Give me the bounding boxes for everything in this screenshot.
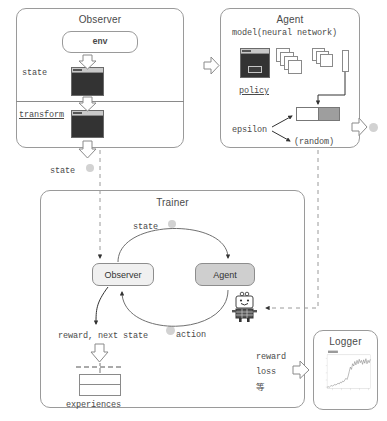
state-image-transformed [71, 110, 104, 138]
state-image-body [72, 73, 103, 95]
experiences-label: experiences [66, 400, 121, 410]
trainer-observer-node[interactable]: Observer [92, 263, 154, 286]
agent-state-body [241, 54, 269, 77]
transform-divider [16, 101, 184, 102]
experiences-stack [79, 374, 121, 396]
trainer-observer-node-label: Observer [104, 270, 141, 280]
agent-epsilon-label: epsilon [232, 125, 267, 135]
block-arrow-into-agent [204, 57, 219, 74]
nn-layer-group-1 [276, 48, 310, 80]
nn-card [288, 60, 302, 74]
trainer-state-dot [168, 220, 176, 228]
agent-random-label: (random) [294, 137, 334, 147]
agent-box-title: Agent [221, 14, 359, 25]
env-node[interactable]: env [62, 31, 138, 53]
output-etc-label: 等 [256, 380, 265, 393]
experience-row [80, 385, 120, 395]
agent-state-inner-window [248, 66, 262, 73]
trainer-agent-node[interactable]: Agent [195, 263, 255, 286]
logger-chart [319, 350, 373, 398]
state-image2-body [72, 116, 103, 137]
trainer-reward-next-state-label: reward, next state [58, 331, 148, 341]
agent-output-dot [369, 123, 378, 132]
action-bar-right-half [318, 108, 340, 120]
nn-card [320, 54, 333, 67]
output-loss-label: loss [256, 367, 276, 377]
nn-layer-group-2 [312, 48, 340, 76]
trainer-box-title: Trainer [41, 197, 304, 208]
trainer-action-dot [166, 326, 175, 335]
diagram-canvas: Observer env state transform state Agent… [0, 0, 387, 421]
observer-output-dot [86, 164, 94, 172]
agent-model-label: model(neural network) [232, 28, 337, 38]
env-label: env [92, 37, 107, 47]
state-image-raw [71, 67, 104, 96]
action-bar-left-half [297, 108, 318, 120]
action-value-bar [296, 107, 340, 121]
agent-input-state-image [240, 48, 270, 78]
trainer-action-label: action [176, 330, 206, 340]
trainer-state-label: state [133, 222, 158, 232]
agent-policy-label: policy [239, 86, 269, 96]
nn-output-vector [342, 50, 349, 72]
trainer-agent-node-label: Agent [213, 270, 237, 280]
experience-row [80, 375, 120, 385]
transform-label: transform [19, 110, 64, 120]
logger-box-title: Logger [314, 336, 377, 347]
output-reward-label: reward [256, 352, 286, 362]
logger-chart-frame [326, 351, 371, 391]
observer-output-state-label: state [50, 166, 75, 176]
observer-box-title: Observer [17, 14, 183, 25]
robot-icon [231, 291, 259, 323]
observer-state-label: state [22, 68, 47, 78]
